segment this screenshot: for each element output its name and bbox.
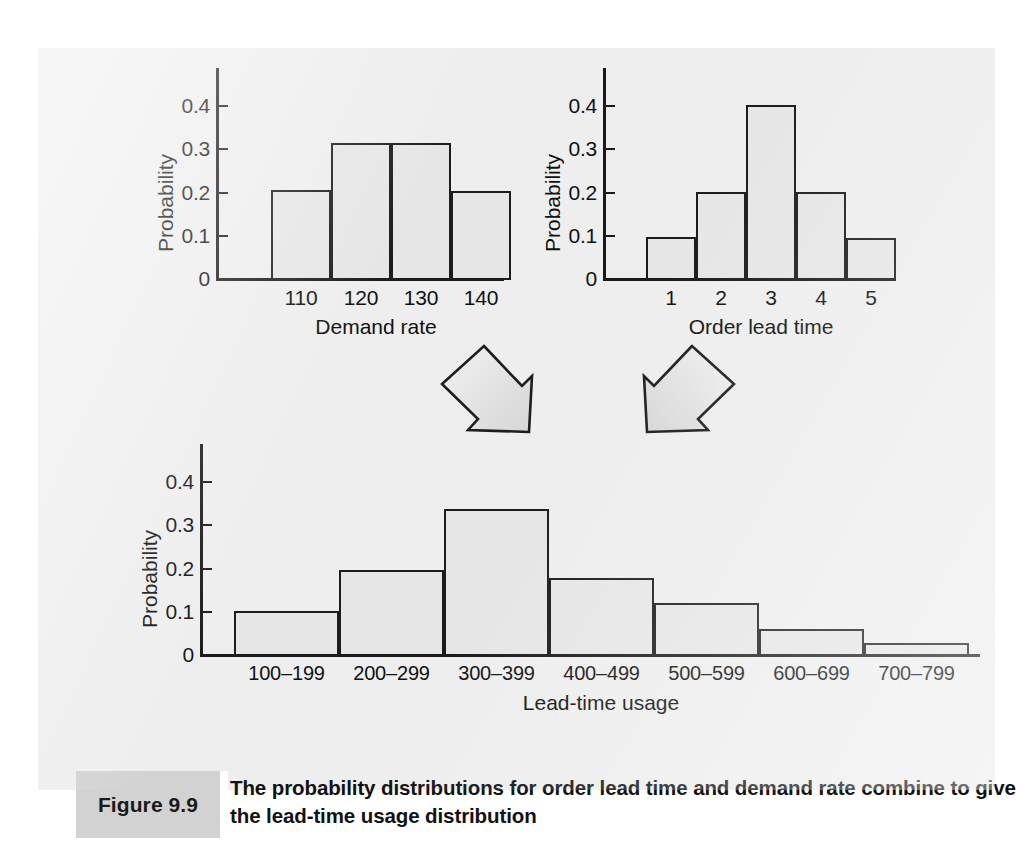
bar-110 <box>271 190 331 280</box>
y-tick-0.4 <box>203 481 212 483</box>
y-axis-title: Probability <box>541 154 565 252</box>
x-tick-label-3: 3 <box>746 286 796 310</box>
bar-5 <box>846 238 896 280</box>
x-tick-label-130: 130 <box>391 286 451 310</box>
y-tick-0.3 <box>219 148 228 150</box>
x-tick-label-100-199: 100–199 <box>234 662 339 685</box>
bar-4 <box>796 192 846 280</box>
chart-lead-time-usage: 0.4 0.3 0.2 0.1 0 Probability 100–199 20… <box>48 438 978 728</box>
figure-panel: 0.4 0.3 0.2 0.1 0 Probability 110 120 13… <box>38 48 995 790</box>
bar-700-799 <box>864 643 969 656</box>
caption-divider <box>220 771 228 838</box>
chart-demand-rate: 0.4 0.3 0.2 0.1 0 Probability 110 120 13… <box>138 62 518 322</box>
figure-number-label: Figure 9.9 <box>98 793 198 817</box>
y-axis-line <box>603 68 606 280</box>
y-tick-label-0.4: 0.4 <box>142 470 194 494</box>
y-tick-0.3 <box>606 148 615 150</box>
x-tick-label-200-299: 200–299 <box>339 662 444 685</box>
y-tick-0.3 <box>203 524 212 526</box>
x-tick-label-1: 1 <box>646 286 696 310</box>
x-tick-label-700-799: 700–799 <box>864 662 969 685</box>
x-tick-label-500-599: 500–599 <box>654 662 759 685</box>
y-tick-label-0.4: 0.4 <box>158 94 210 118</box>
figure-number-badge: Figure 9.9 <box>76 771 220 838</box>
y-axis-title: Probability <box>138 530 162 628</box>
x-tick-label-600-699: 600–699 <box>759 662 864 685</box>
y-tick-label-0: 0 <box>142 643 194 667</box>
y-axis-line <box>200 444 203 656</box>
x-tick-label-2: 2 <box>696 286 746 310</box>
arrow-left-down-right <box>435 335 555 440</box>
bar-130 <box>391 143 451 280</box>
y-tick-0.1 <box>203 611 212 613</box>
x-axis-title: Lead-time usage <box>451 691 751 715</box>
y-axis-line <box>216 68 219 280</box>
y-tick-0.2 <box>219 192 228 194</box>
x-tick-label-5: 5 <box>846 286 896 310</box>
bar-3 <box>746 105 796 280</box>
y-tick-0.2 <box>203 568 212 570</box>
x-tick-label-4: 4 <box>796 286 846 310</box>
bar-2 <box>696 192 746 280</box>
y-tick-0.1 <box>606 235 615 237</box>
y-axis-title: Probability <box>154 154 178 252</box>
x-tick-label-400-499: 400–499 <box>549 662 654 685</box>
bar-300-399 <box>444 509 549 656</box>
figure-caption-text: The probability distributions for order … <box>230 774 1020 830</box>
figure-caption-block: Figure 9.9 The probability distributions… <box>76 771 1033 838</box>
y-tick-0.4 <box>219 105 228 107</box>
chart-order-lead-time: 0.4 0.3 0.2 0.1 0 Probability 1 2 3 4 5 … <box>483 62 903 322</box>
bar-100-199 <box>234 611 339 656</box>
bar-1 <box>646 237 696 280</box>
y-tick-0.1 <box>219 235 228 237</box>
bar-500-599 <box>654 603 759 656</box>
bar-600-699 <box>759 629 864 656</box>
bar-120 <box>331 143 391 280</box>
y-tick-label-0.4: 0.4 <box>545 94 597 118</box>
y-tick-0.4 <box>606 105 615 107</box>
y-tick-label-0: 0 <box>158 267 210 291</box>
x-tick-label-110: 110 <box>271 286 331 310</box>
bar-400-499 <box>549 578 654 656</box>
arrow-right-down-left <box>621 335 741 440</box>
y-tick-0.2 <box>606 192 615 194</box>
x-tick-label-300-399: 300–399 <box>444 662 549 685</box>
x-tick-label-120: 120 <box>331 286 391 310</box>
bar-200-299 <box>339 570 444 656</box>
y-tick-label-0: 0 <box>545 267 597 291</box>
